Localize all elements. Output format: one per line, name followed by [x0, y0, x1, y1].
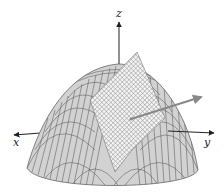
y-axis-label: y [203, 136, 211, 149]
x-axis-label: x [13, 136, 20, 149]
z-axis-label: z [115, 7, 122, 20]
paraboloid-tangent-plane-diagram: z x [0, 0, 224, 196]
